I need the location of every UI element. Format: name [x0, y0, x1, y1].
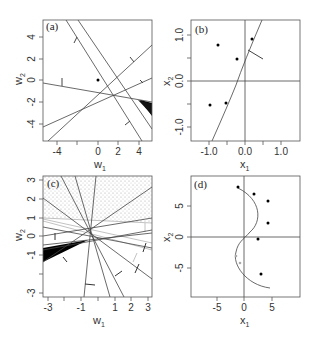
x-axis-label: w1	[93, 158, 106, 172]
svg-text:4: 4	[26, 34, 37, 40]
svg-text:0: 0	[241, 302, 247, 313]
svg-text:0: 0	[26, 233, 37, 239]
svg-text:1.0: 1.0	[274, 146, 288, 157]
svg-text:-4: -4	[26, 119, 37, 128]
svg-text:2: 2	[26, 196, 37, 202]
svg-text:-5: -5	[174, 263, 185, 272]
data-point	[97, 79, 100, 82]
y-axis-label: w2	[12, 229, 26, 242]
svg-text:2: 2	[115, 146, 121, 157]
svg-text:2: 2	[128, 302, 134, 313]
svg-text:1.0: 1.0	[174, 28, 185, 42]
svg-text:1: 1	[112, 302, 118, 313]
svg-text:5: 5	[269, 302, 275, 313]
svg-text:-1: -1	[77, 302, 86, 313]
svg-text:3: 3	[26, 177, 37, 183]
svg-text:-1.0: -1.0	[200, 146, 218, 157]
svg-text:-5: -5	[213, 302, 222, 313]
data-points	[237, 186, 270, 276]
panel-b: (b) -1.0 0.0 1.0 1.0 0.0 -1.0 x1 x2	[160, 20, 300, 172]
svg-text:0.0: 0.0	[174, 74, 185, 88]
panel-label: (c)	[47, 177, 60, 190]
svg-text:2: 2	[26, 56, 37, 62]
svg-text:-2: -2	[26, 97, 37, 106]
svg-text:4: 4	[136, 146, 142, 157]
x-axis-label: x1	[240, 158, 250, 172]
svg-text:-1.0: -1.0	[174, 118, 185, 136]
panel-d: (d) -5 0 5 5 0 -5 x1 x2	[160, 176, 300, 328]
data-points	[209, 38, 254, 107]
panel-c: (c) -3 -1 1 2 3 3 2 1 0 -1 -3 w1 w2	[12, 176, 152, 328]
panel-label: (a)	[46, 20, 59, 33]
x-axis-label: w1	[92, 314, 105, 328]
y-axis-label: x2	[160, 233, 174, 243]
panel-a: (a) -4 0 2 4 4 2 0 -2 -4 w1 w2	[12, 20, 152, 172]
svg-text:-1: -1	[26, 250, 37, 259]
svg-text:0: 0	[26, 77, 37, 83]
panel-label: (b)	[195, 23, 208, 36]
x-axis-label: x1	[240, 314, 250, 328]
y-axis-label: w2	[12, 73, 26, 86]
svg-text:1: 1	[26, 215, 37, 221]
figure: (a) -4 0 2 4 4 2 0 -2 -4 w1 w2	[0, 0, 314, 345]
panel-label: (d)	[194, 178, 207, 191]
svg-text:3: 3	[145, 302, 151, 313]
y-axis-label: x2	[160, 77, 174, 87]
svg-text:-3: -3	[26, 288, 37, 297]
svg-text:-3: -3	[44, 302, 53, 313]
svg-text:0: 0	[174, 234, 185, 240]
plot-box	[191, 20, 300, 141]
svg-text:5: 5	[174, 203, 185, 209]
svg-text:0.0: 0.0	[238, 146, 252, 157]
svg-text:0: 0	[95, 146, 101, 157]
svg-text:-4: -4	[53, 146, 62, 157]
